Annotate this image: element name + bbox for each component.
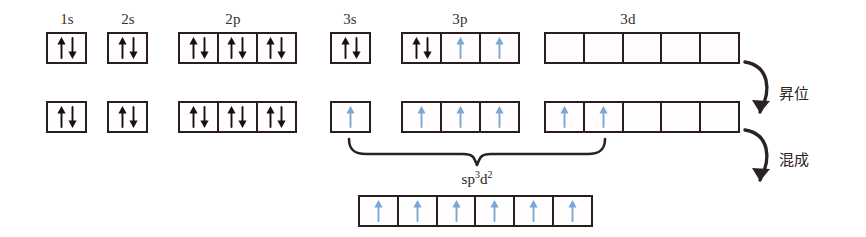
arrow-up-icon: [266, 106, 275, 128]
orbital-group-promoted-state-3p: [401, 101, 520, 133]
sp3d2-brace-icon: [349, 139, 605, 165]
arrow-down-icon: [277, 37, 286, 59]
orbital-box[interactable]: [479, 32, 520, 64]
orbital-box-electrons: [481, 103, 518, 131]
orbital-box-electrons: [701, 103, 738, 131]
orbital-box[interactable]: [358, 195, 399, 227]
hybrid-label-d: d: [480, 171, 488, 187]
orbital-box-electrons: [662, 34, 699, 62]
step-label-promotion: 昇位: [779, 86, 809, 101]
orbital-group-promoted-state-1s: [46, 101, 87, 133]
arrow-down-icon: [129, 106, 138, 128]
hybrid-label-sup-2: 2: [487, 169, 492, 180]
orbital-box-electrons: [476, 197, 513, 225]
orbital-box[interactable]: [699, 32, 740, 64]
orbital-box[interactable]: [46, 101, 87, 133]
orbital-box[interactable]: [440, 101, 481, 133]
orbital-box[interactable]: [660, 101, 701, 133]
orbital-box-electrons: [554, 197, 591, 225]
step-label-hybridization: 混成: [779, 152, 809, 167]
orbital-box[interactable]: [622, 101, 663, 133]
orbital-box[interactable]: [513, 195, 554, 227]
orbital-group-hybrid-state-sp3d2: [358, 195, 593, 227]
arrow-down-icon: [129, 37, 138, 59]
orbital-label-2s: 2s: [121, 12, 135, 27]
arrow-up-icon: [346, 106, 355, 128]
orbital-box[interactable]: [479, 101, 520, 133]
orbital-group-ground-state-2s: [107, 32, 148, 64]
orbital-box[interactable]: [436, 195, 477, 227]
orbital-box-electrons: [399, 197, 436, 225]
orbital-box[interactable]: [397, 195, 438, 227]
orbital-box[interactable]: [474, 195, 515, 227]
orbital-box-electrons: [109, 103, 146, 131]
arrow-up-icon: [456, 37, 465, 59]
orbital-box[interactable]: [256, 32, 297, 64]
orbital-box-electrons: [219, 34, 256, 62]
orbital-label-3s: 3s: [343, 12, 357, 27]
orbital-box-electrons: [109, 34, 146, 62]
orbital-box-electrons: [258, 34, 295, 62]
orbital-box[interactable]: [440, 32, 481, 64]
orbital-box[interactable]: [107, 32, 148, 64]
orbital-box[interactable]: [622, 32, 663, 64]
arrow-up-icon: [568, 200, 577, 222]
arrow-up-icon: [417, 106, 426, 128]
arrow-up-icon: [57, 37, 66, 59]
arrow-up-icon: [118, 106, 127, 128]
orbital-box-electrons: [332, 103, 369, 131]
arrow-up-icon: [456, 106, 465, 128]
arrow-up-icon: [118, 37, 127, 59]
orbital-box[interactable]: [107, 101, 148, 133]
orbital-box[interactable]: [583, 101, 624, 133]
arrow-up-icon: [266, 37, 275, 59]
orbital-box-electrons: [662, 103, 699, 131]
orbital-group-promoted-state-3d: [544, 101, 740, 133]
orbital-box-electrons: [180, 103, 217, 131]
orbital-box-electrons: [360, 197, 397, 225]
orbital-box[interactable]: [217, 32, 258, 64]
orbital-box[interactable]: [178, 101, 219, 133]
orbital-box[interactable]: [330, 101, 371, 133]
arrow-down-icon: [423, 37, 432, 59]
orbital-group-ground-state-1s: [46, 32, 87, 64]
orbital-box-electrons: [585, 103, 622, 131]
orbital-box[interactable]: [46, 32, 87, 64]
orbital-box[interactable]: [217, 101, 258, 133]
arrow-down-icon: [200, 106, 209, 128]
orbital-box[interactable]: [178, 32, 219, 64]
orbital-box-electrons: [403, 103, 440, 131]
orbital-box-electrons: [403, 34, 440, 62]
orbital-box[interactable]: [552, 195, 593, 227]
arrow-up-icon: [341, 37, 350, 59]
orbital-box[interactable]: [256, 101, 297, 133]
arrow-up-icon: [227, 37, 236, 59]
arrow-up-icon: [189, 106, 198, 128]
arrow-up-icon: [452, 200, 461, 222]
orbital-group-ground-state-3s: [330, 32, 371, 64]
orbital-box-electrons: [701, 34, 738, 62]
orbital-box[interactable]: [401, 101, 442, 133]
orbital-box-electrons: [180, 34, 217, 62]
orbital-box[interactable]: [330, 32, 371, 64]
orbital-label-3p: 3p: [452, 12, 467, 27]
orbital-group-promoted-state-3s: [330, 101, 371, 133]
orbital-group-ground-state-2p: [178, 32, 297, 64]
orbital-box[interactable]: [699, 101, 740, 133]
arrow-up-icon: [495, 37, 504, 59]
orbital-box-electrons: [48, 34, 85, 62]
arrow-up-icon: [599, 106, 608, 128]
hybridization-arrow-icon: [745, 130, 770, 181]
orbital-box-electrons: [258, 103, 295, 131]
orbital-box-electrons: [546, 34, 583, 62]
orbital-box-electrons: [219, 103, 256, 131]
orbital-box[interactable]: [401, 32, 442, 64]
orbital-group-ground-state-3p: [401, 32, 520, 64]
orbital-box[interactable]: [660, 32, 701, 64]
orbital-box-electrons: [48, 103, 85, 131]
orbital-box[interactable]: [544, 101, 585, 133]
orbital-box[interactable]: [544, 32, 585, 64]
arrow-down-icon: [238, 37, 247, 59]
orbital-box[interactable]: [583, 32, 624, 64]
orbital-box-electrons: [438, 197, 475, 225]
